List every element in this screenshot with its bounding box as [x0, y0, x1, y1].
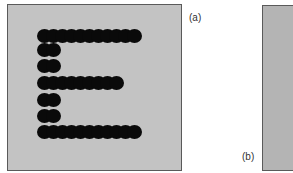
dot [46, 59, 61, 73]
dot [46, 93, 61, 107]
dot [46, 109, 61, 123]
panel-b-label: (b) [242, 151, 254, 162]
panel-a [7, 4, 182, 171]
dot [109, 76, 124, 90]
dot [127, 125, 142, 139]
dot [127, 29, 142, 43]
dot [46, 43, 61, 57]
panel-a-label: (a) [189, 12, 201, 23]
panel-b [262, 5, 293, 171]
